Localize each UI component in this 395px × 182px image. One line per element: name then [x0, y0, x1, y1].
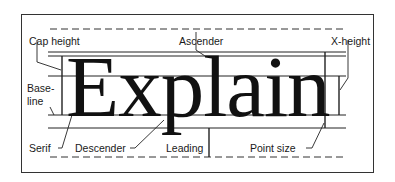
label-ascender: Ascender	[179, 35, 223, 47]
label-leading: Leading	[166, 142, 203, 154]
sample-word: Explain	[66, 43, 330, 130]
label-baseline-2: line	[27, 95, 43, 107]
x-height-leader	[340, 40, 348, 90]
label-point-size: Point size	[250, 142, 296, 154]
label-serif: Serif	[29, 142, 51, 154]
typography-diagram: Explain Cap height Ascender X-height Bas…	[0, 0, 395, 182]
label-cap-height: Cap height	[29, 35, 80, 47]
label-x-height: X-height	[331, 35, 370, 47]
label-descender: Descender	[75, 142, 126, 154]
label-baseline-1: Base-	[27, 82, 54, 94]
baseline-leader	[50, 107, 54, 115]
